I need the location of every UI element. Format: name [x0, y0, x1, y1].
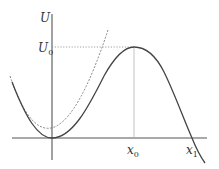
u0-label: U0: [38, 41, 53, 57]
parabolic-approximation-curve: [10, 30, 108, 128]
x1-label: x1: [186, 143, 198, 159]
y-axis-label: U: [40, 11, 51, 25]
potential-diagram: U U0 x0 x1: [0, 0, 219, 169]
potential-curve: [12, 47, 205, 163]
x0-label: x0: [127, 143, 139, 159]
